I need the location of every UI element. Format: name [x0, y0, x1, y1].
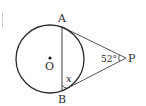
label-o: O — [45, 60, 54, 73]
angle-x-arc — [62, 85, 67, 88]
angle-p-arc — [119, 55, 120, 62]
label-a: A — [57, 12, 67, 25]
angle-x-label: x — [66, 73, 72, 84]
label-p: P — [128, 52, 136, 65]
angle-p-label: 52° — [101, 54, 117, 64]
label-b: B — [58, 93, 66, 106]
geometry-diagram: A B O P 52° x — [0, 0, 146, 106]
